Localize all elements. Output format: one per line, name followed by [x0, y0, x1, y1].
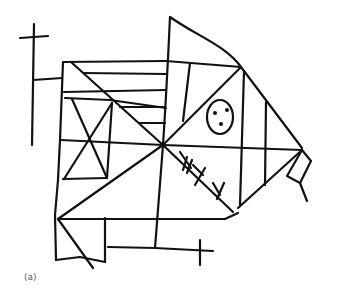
tally-line [163, 145, 302, 219]
line-drawing [0, 0, 341, 303]
lower-left-lines [58, 145, 225, 268]
eye-icon [207, 100, 233, 134]
figure-caption: (a) [24, 272, 37, 282]
stripes [64, 62, 166, 145]
top-left-cross-icon [20, 24, 62, 145]
snout-diamond [287, 150, 311, 201]
hourglass [61, 99, 163, 179]
